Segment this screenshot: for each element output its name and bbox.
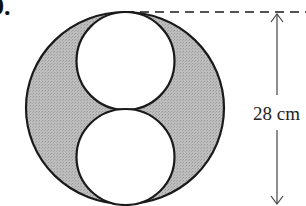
dimension-label: 28 cm — [253, 102, 300, 125]
question-number: 9. — [0, 0, 11, 20]
circle-diagram: 9. 28 cm — [0, 0, 306, 206]
small-circle-top — [77, 12, 175, 110]
small-circle-bottom — [77, 109, 175, 205]
